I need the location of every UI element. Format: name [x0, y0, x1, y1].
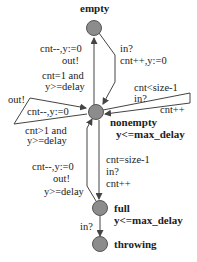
edge-label-update: cnt--,y:=0 — [32, 161, 74, 172]
edge-empty-to-nonempty — [99, 33, 115, 104]
edge-label-guard: cnt<size-1 — [134, 82, 178, 93]
edge-label-guard: y>=delay — [27, 135, 67, 146]
edge-label-update: cnt++,y:=0 — [120, 55, 167, 66]
edge-label-update: cnt++ — [160, 104, 185, 115]
edge-label-sync: out! — [62, 55, 79, 66]
state-empty-node[interactable] — [87, 21, 102, 36]
state-throwing-node[interactable] — [93, 237, 108, 252]
state-full-node[interactable] — [93, 201, 108, 216]
state-throwing-label: throwing — [114, 239, 157, 250]
state-full-label: full — [114, 203, 130, 214]
state-empty-label: empty — [80, 3, 109, 14]
edge-label-update: cnt--,y:=0 — [40, 43, 82, 54]
edge-label-sync: in? — [80, 221, 93, 232]
edge-label-sync: in? — [120, 43, 133, 54]
edge-label-sync: out! — [53, 173, 70, 184]
edge-label-sync: in? — [106, 166, 119, 177]
edge-label-guard: cnt=1 and — [42, 70, 84, 81]
edge-label-guard: y>=delay — [45, 81, 85, 92]
edge-label-guard: y>=delay — [44, 186, 84, 197]
state-full-invariant: y<=max_delay — [114, 215, 183, 226]
state-nonempty-node[interactable] — [89, 105, 104, 120]
edge-label-update: cnt++ — [106, 178, 131, 189]
state-nonempty-label: nonempty — [110, 117, 157, 128]
edge-label-sync: out! — [8, 94, 25, 105]
edge-label-guard: cnt=size-1 — [106, 154, 150, 165]
edge-label-update: cnt--,y:=0 — [27, 106, 69, 117]
edge-full-to-nonempty — [87, 119, 96, 201]
edge-label-sync: in? — [134, 93, 147, 104]
state-nonempty-invariant: y<=max_delay — [116, 129, 185, 140]
